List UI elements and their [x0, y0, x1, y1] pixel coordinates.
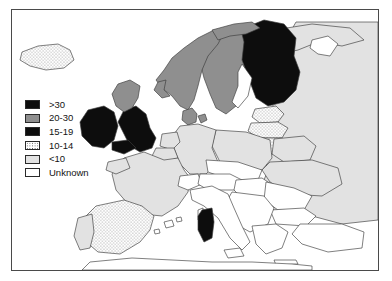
- legend-label-20-30: 20-30: [49, 113, 73, 123]
- sicily: [224, 248, 244, 258]
- legend-item-20-30: 20-30: [25, 112, 117, 126]
- island-ibiza: [154, 229, 160, 234]
- legend-label-unknown: Unknown: [49, 168, 89, 178]
- country-iceland: [20, 44, 74, 70]
- legend-swatch-10-14: [25, 141, 40, 150]
- country-portugal: [74, 214, 94, 250]
- legend-item-10-14: 10-14: [25, 139, 117, 153]
- island-sardinia: [198, 208, 214, 242]
- figure-choropleth-map: >30 20-30 15-19 10-14 <10 Unknown: [0, 0, 392, 281]
- legend-item-15-19: 15-19: [25, 125, 117, 139]
- legend-swatch-lt10: [25, 155, 40, 164]
- island-mallorca: [164, 220, 174, 228]
- island-menorca: [176, 217, 182, 222]
- denmark-zealand: [198, 114, 207, 123]
- legend-label-15-19: 15-19: [49, 127, 73, 137]
- country-greece: [252, 224, 288, 254]
- legend-swatch-20-30: [25, 114, 40, 123]
- country-turkey: [292, 224, 364, 252]
- legend-label-gt30: >30: [49, 100, 65, 110]
- legend-item-unknown: Unknown: [25, 166, 117, 180]
- legend-swatch-unknown: [25, 168, 40, 177]
- country-denmark: [182, 108, 197, 125]
- map-frame: >30 20-30 15-19 10-14 <10 Unknown: [11, 9, 379, 271]
- legend-label-10-14: 10-14: [49, 141, 73, 151]
- legend-label-lt10: <10: [49, 154, 65, 164]
- map-legend: >30 20-30 15-19 10-14 <10 Unknown: [25, 98, 117, 180]
- legend-swatch-gt30: [25, 100, 40, 109]
- legend-item-lt10: <10: [25, 152, 117, 166]
- legend-item-gt30: >30: [25, 98, 117, 112]
- legend-swatch-15-19: [25, 127, 40, 136]
